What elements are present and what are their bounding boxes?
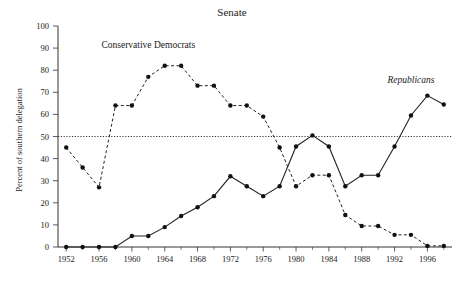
y-axis-title: Percent of southern delegation	[14, 87, 24, 191]
y-tick-label: 90	[41, 43, 50, 53]
series-label-conservative-democrats: Conservative Democrats	[101, 40, 195, 50]
data-point	[179, 64, 183, 68]
data-point	[277, 145, 281, 149]
x-tick-label: 1980	[288, 254, 305, 264]
y-tick-label: 0	[45, 242, 49, 252]
data-point	[277, 184, 281, 188]
data-point	[163, 225, 167, 229]
x-tick-label: 1976	[255, 254, 272, 264]
x-tick-label: 1992	[386, 254, 403, 264]
y-tick-label: 50	[41, 132, 50, 142]
data-point	[294, 144, 298, 148]
data-point	[409, 113, 413, 117]
y-tick-label: 80	[41, 65, 50, 75]
data-point	[261, 114, 265, 118]
data-point	[310, 173, 314, 177]
y-tick-label: 70	[41, 87, 50, 97]
data-point	[80, 165, 84, 169]
data-point	[212, 194, 216, 198]
data-point	[409, 233, 413, 237]
series-label-republicans: Republicans	[386, 75, 434, 85]
data-point	[80, 245, 84, 249]
data-point	[195, 205, 199, 209]
data-point	[228, 174, 232, 178]
data-point	[442, 244, 446, 248]
data-point	[163, 64, 167, 68]
chart-background	[0, 0, 465, 285]
x-tick-label: 1964	[156, 254, 174, 264]
data-point	[343, 213, 347, 217]
x-tick-label: 1960	[123, 254, 140, 264]
data-point	[179, 214, 183, 218]
x-tick-label: 1996	[419, 254, 436, 264]
data-point	[360, 173, 364, 177]
data-point	[442, 102, 446, 106]
y-tick-label: 20	[41, 198, 50, 208]
data-point	[376, 173, 380, 177]
data-point	[245, 184, 249, 188]
data-point	[64, 145, 68, 149]
data-point	[327, 173, 331, 177]
y-tick-label: 10	[41, 220, 50, 230]
y-tick-label: 40	[41, 154, 50, 164]
data-point	[245, 103, 249, 107]
data-point	[392, 144, 396, 148]
senate-line-chart: Senate Percent of southern delegation 01…	[0, 0, 465, 285]
chart-container: Senate Percent of southern delegation 01…	[0, 0, 465, 285]
data-point	[376, 224, 380, 228]
data-point	[146, 234, 150, 238]
y-tick-label: 60	[41, 109, 50, 119]
data-point	[97, 245, 101, 249]
data-point	[228, 103, 232, 107]
chart-title: Senate	[217, 6, 246, 18]
data-point	[425, 244, 429, 248]
data-point	[392, 233, 396, 237]
data-point	[327, 144, 331, 148]
data-point	[261, 194, 265, 198]
x-tick-label: 1968	[189, 254, 206, 264]
data-point	[113, 103, 117, 107]
data-point	[195, 83, 199, 87]
data-point	[146, 75, 150, 79]
y-tick-label: 30	[41, 176, 50, 186]
data-point	[130, 234, 134, 238]
x-tick-label: 1956	[91, 254, 108, 264]
x-tick-label: 1988	[353, 254, 370, 264]
data-point	[343, 184, 347, 188]
y-tick-label: 100	[36, 21, 49, 31]
data-point	[360, 224, 364, 228]
x-tick-label: 1972	[222, 254, 239, 264]
x-tick-label: 1952	[58, 254, 75, 264]
data-point	[294, 184, 298, 188]
data-point	[64, 245, 68, 249]
data-point	[97, 185, 101, 189]
data-point	[113, 245, 117, 249]
data-point	[212, 83, 216, 87]
x-tick-label: 1984	[320, 254, 338, 264]
data-point	[425, 93, 429, 97]
data-point	[130, 103, 134, 107]
data-point	[310, 133, 314, 137]
